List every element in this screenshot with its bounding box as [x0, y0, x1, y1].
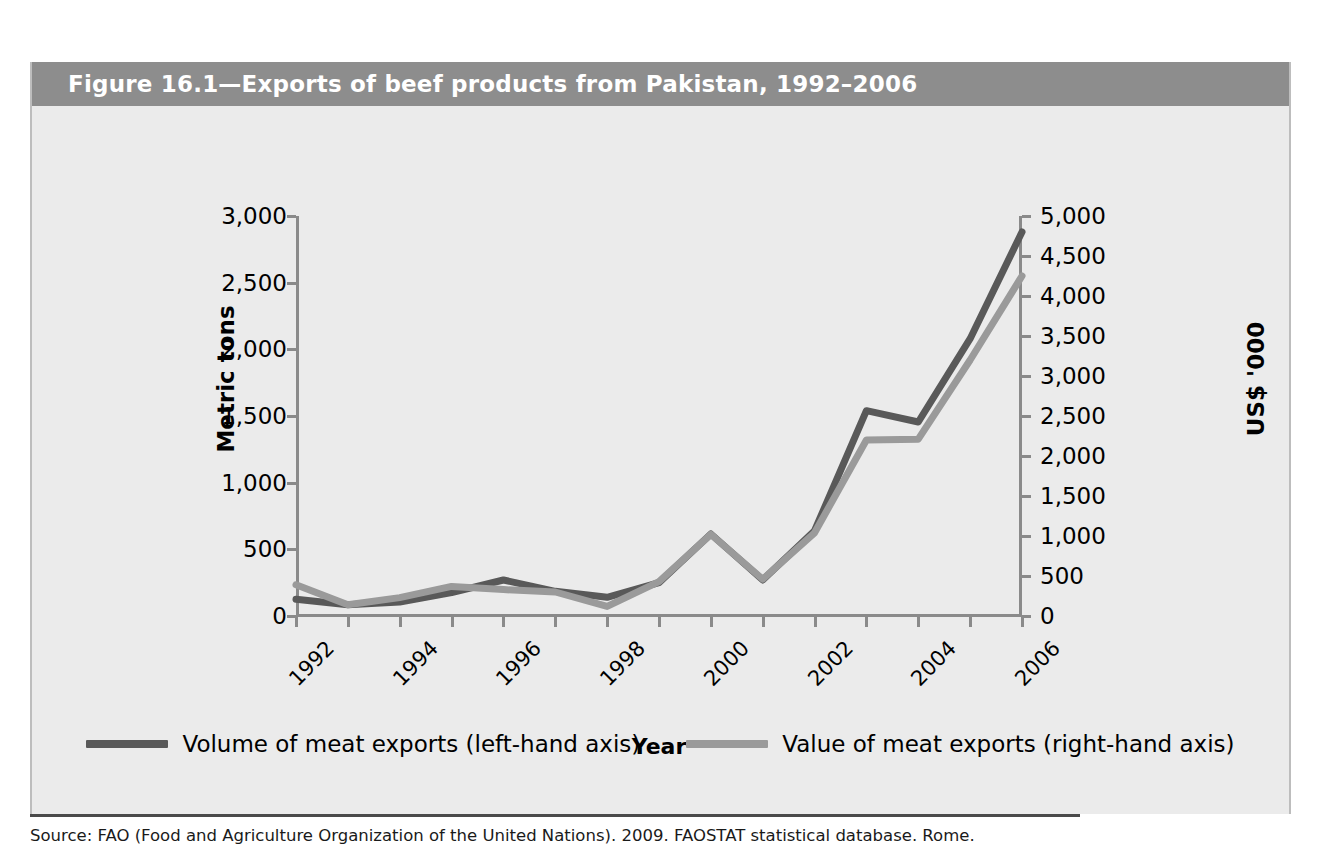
y-axis-right-tick — [1022, 455, 1031, 458]
y-axis-right-title: US$ '000 — [1243, 279, 1269, 479]
x-axis-tick — [814, 617, 817, 627]
x-axis-tick-label: 1998 — [548, 636, 650, 738]
figure-title-bar: Figure 16.1—Exports of beef products fro… — [32, 62, 1289, 106]
series-lines — [296, 216, 1022, 616]
x-axis-tick — [917, 617, 920, 627]
y-axis-right-tick — [1022, 575, 1031, 578]
x-axis-tick-label: 2002 — [756, 636, 858, 738]
y-axis-left-tick — [287, 348, 296, 351]
x-axis-tick-label: 2006 — [963, 636, 1065, 738]
y-axis-left-tick-label: 500 — [167, 536, 287, 562]
y-axis-right-tick-label: 500 — [1040, 563, 1160, 589]
y-axis-right-tick — [1022, 295, 1031, 298]
legend-label: Value of meat exports (right-hand axis) — [782, 731, 1234, 757]
figure-title: Figure 16.1—Exports of beef products fro… — [68, 71, 917, 97]
legend-swatch — [686, 740, 768, 748]
y-axis-left-tick — [287, 482, 296, 485]
y-axis-left-title: Metric tons — [213, 279, 239, 479]
y-axis-right-tick-label: 1,000 — [1040, 523, 1160, 549]
chart-legend: Volume of meat exports (left-hand axis)V… — [32, 731, 1289, 757]
y-axis-right-tick — [1022, 255, 1031, 258]
y-axis-right-tick — [1022, 335, 1031, 338]
y-axis-right-tick — [1022, 415, 1031, 418]
figure-frame: Figure 16.1—Exports of beef products fro… — [30, 62, 1291, 814]
legend-label: Volume of meat exports (left-hand axis) — [182, 731, 640, 757]
legend-swatch — [86, 740, 168, 748]
source-divider — [30, 814, 1080, 817]
y-axis-left-tick — [287, 548, 296, 551]
y-axis-right-tick-label: 3,000 — [1040, 363, 1160, 389]
x-axis-tick — [1021, 617, 1024, 627]
chart-plot-area: 05001,0001,5002,0002,5003,000 05001,0001… — [296, 216, 1022, 616]
y-axis-right-tick-label: 2,500 — [1040, 403, 1160, 429]
x-axis-tick — [502, 617, 505, 627]
source-note: Source: FAO (Food and Agriculture Organi… — [30, 826, 975, 845]
legend-item: Volume of meat exports (left-hand axis) — [86, 731, 640, 757]
y-axis-right-tick-label: 3,500 — [1040, 323, 1160, 349]
series-line — [296, 276, 1022, 606]
legend-item: Value of meat exports (right-hand axis) — [686, 731, 1234, 757]
x-axis-tick — [606, 617, 609, 627]
plot-container: 05001,0001,5002,0002,5003,000 05001,0001… — [32, 106, 1289, 814]
x-axis-tick — [865, 617, 868, 627]
y-axis-right-tick — [1022, 535, 1031, 538]
x-axis-tick — [347, 617, 350, 627]
x-axis-tick — [399, 617, 402, 627]
y-axis-right-tick-label: 5,000 — [1040, 203, 1160, 229]
x-axis-tick — [658, 617, 661, 627]
y-axis-left-tick-label: 3,000 — [167, 203, 287, 229]
y-axis-right-tick-label: 0 — [1040, 603, 1160, 629]
y-axis-right-tick — [1022, 215, 1031, 218]
y-axis-left-tick — [287, 282, 296, 285]
x-axis-tick — [451, 617, 454, 627]
y-axis-left-tick — [287, 215, 296, 218]
y-axis-right-tick-label: 4,500 — [1040, 243, 1160, 269]
x-axis-tick-label: 2000 — [652, 636, 754, 738]
y-axis-right-tick-label: 2,000 — [1040, 443, 1160, 469]
y-axis-left-tick-label: 0 — [167, 603, 287, 629]
x-axis-tick-label: 1996 — [445, 636, 547, 738]
y-axis-right-tick-label: 1,500 — [1040, 483, 1160, 509]
x-axis-tick-label: 1992 — [237, 636, 339, 738]
y-axis-right-tick — [1022, 495, 1031, 498]
x-axis-tick — [710, 617, 713, 627]
series-line — [296, 232, 1022, 605]
y-axis-left-tick — [287, 415, 296, 418]
y-axis-right-tick — [1022, 375, 1031, 378]
x-axis-tick — [762, 617, 765, 627]
y-axis-right-tick-label: 4,000 — [1040, 283, 1160, 309]
x-axis-tick — [554, 617, 557, 627]
x-axis-tick — [969, 617, 972, 627]
x-axis-tick-label: 1994 — [341, 636, 443, 738]
figure-page: Figure 16.1—Exports of beef products fro… — [0, 0, 1321, 857]
x-axis-tick — [295, 617, 298, 627]
x-axis-tick-label: 2004 — [859, 636, 961, 738]
